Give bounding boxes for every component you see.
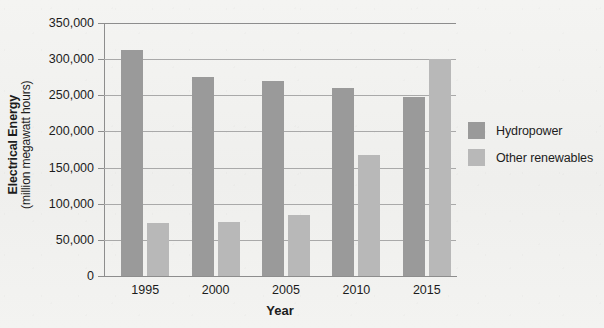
x-axis-tick-label: 2005 <box>272 283 300 297</box>
x-axis-tick-label: 2000 <box>202 283 230 297</box>
y-axis-tick <box>98 59 104 60</box>
legend-item: Other renewables <box>468 149 604 166</box>
y-axis-tick <box>98 240 104 241</box>
bar-2005-other-renewables <box>288 215 310 276</box>
bar-2010-other-renewables <box>358 155 380 276</box>
y-axis-tick-label: 300,000 <box>49 52 94 66</box>
bar-1995-other-renewables <box>147 223 169 276</box>
y-axis-tick-label: 250,000 <box>49 88 94 102</box>
bar-1995-hydropower <box>121 50 143 276</box>
bar-group <box>262 23 310 276</box>
x-axis-line <box>104 276 457 277</box>
y-axis-tick <box>98 131 104 132</box>
bar-2000-other-renewables <box>218 222 240 276</box>
y-axis-tick-label: 0 <box>87 269 94 283</box>
bar-2000-hydropower <box>192 77 214 277</box>
y-axis-tick <box>98 95 104 96</box>
y-axis-tick <box>98 168 104 169</box>
y-axis-tick-label: 50,000 <box>56 233 94 247</box>
y-axis-tick <box>98 23 104 24</box>
y-axis-tick <box>98 204 104 205</box>
y-axis-tick <box>98 276 104 277</box>
bar-2005-hydropower <box>262 81 284 276</box>
legend-swatch-icon <box>468 149 485 166</box>
bar-group <box>121 23 169 276</box>
bar-2015-other-renewables <box>429 59 451 276</box>
plot-area <box>104 23 456 277</box>
bar-chart: Electrical Energy (million megawatt hour… <box>0 0 604 328</box>
bar-2010-hydropower <box>332 88 354 276</box>
x-axis-tick-label: 2015 <box>413 283 441 297</box>
x-axis-title: Year <box>104 303 456 318</box>
y-axis-tick-label: 150,000 <box>49 161 94 175</box>
bar-group <box>192 23 240 276</box>
x-axis-tick-label: 2010 <box>342 283 370 297</box>
y-axis-tick-label: 350,000 <box>49 16 94 30</box>
bar-2015-hydropower <box>403 97 425 276</box>
y-axis-tick-label: 200,000 <box>49 124 94 138</box>
bar-group <box>332 23 380 276</box>
legend-swatch-icon <box>468 122 485 139</box>
chart-legend: HydropowerOther renewables <box>468 122 604 176</box>
legend-item: Hydropower <box>468 122 604 139</box>
y-axis-tick-labels: 050,000100,000150,000200,000250,000300,0… <box>0 23 94 277</box>
legend-label: Other renewables <box>496 151 593 165</box>
y-axis-tick-label: 100,000 <box>49 197 94 211</box>
bar-group <box>403 23 451 276</box>
legend-label: Hydropower <box>496 124 562 138</box>
x-axis-tick-label: 1995 <box>131 283 159 297</box>
x-axis-tick-labels: 19952000200520102015 <box>104 283 456 301</box>
